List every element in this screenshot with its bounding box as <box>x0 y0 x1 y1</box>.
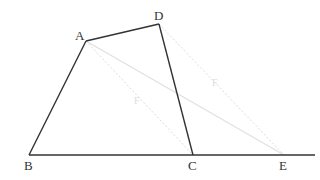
label-a: A <box>75 28 85 43</box>
faint-mark-de: F <box>212 77 218 88</box>
label-b: B <box>24 158 33 173</box>
label-e: E <box>279 158 287 173</box>
segment-dc <box>159 24 193 155</box>
geometry-diagram: F F A D B C E <box>0 0 320 180</box>
segment-ad <box>86 24 159 41</box>
segment-de <box>159 24 284 155</box>
label-c: C <box>188 158 197 173</box>
segment-ab <box>29 41 86 155</box>
faint-mark-ac: F <box>134 95 140 106</box>
label-d: D <box>154 8 163 23</box>
segment-ae <box>86 41 284 155</box>
